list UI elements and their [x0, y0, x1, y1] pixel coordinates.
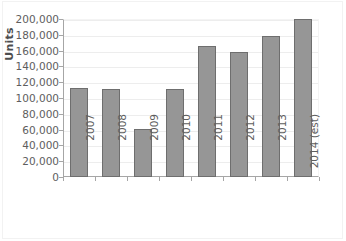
y-axis-tick: [59, 145, 63, 146]
y-axis-tick: [59, 35, 63, 36]
y-axis-tick-labels: 200,000180,000160,000140,000120,000100,0…: [0, 0, 59, 241]
y-axis-tick-label: 0: [0, 172, 59, 182]
x-axis-tick: [255, 177, 256, 181]
x-axis-tick: [63, 177, 64, 181]
y-axis-tick-label: 40,000: [0, 140, 59, 150]
x-axis-tick-label: 2008: [116, 114, 129, 184]
y-axis-tick-label: 120,000: [0, 77, 59, 87]
y-axis-tick-label: 80,000: [0, 109, 59, 119]
y-axis-tick-label: 200,000: [0, 14, 59, 24]
x-axis-tick-label: 2009: [148, 114, 161, 184]
y-axis-tick: [59, 98, 63, 99]
y-axis-tick: [59, 19, 63, 20]
x-axis-tick: [287, 177, 288, 181]
x-axis-tick: [159, 177, 160, 181]
y-axis-tick: [59, 66, 63, 67]
y-axis-tick: [59, 161, 63, 162]
y-axis-tick-label: 140,000: [0, 61, 59, 71]
y-axis-tick: [59, 130, 63, 131]
y-axis-tick: [59, 82, 63, 83]
y-axis-tick-label: 100,000: [0, 93, 59, 103]
y-axis-tick-label: 60,000: [0, 125, 59, 135]
y-axis-tick: [59, 114, 63, 115]
y-axis-tick: [59, 51, 63, 52]
x-axis-tick: [223, 177, 224, 181]
x-axis-tick: [95, 177, 96, 181]
x-axis-tick-label: 2007: [84, 114, 97, 184]
y-axis-tick-label: 160,000: [0, 46, 59, 56]
x-axis-tick-label: 2010: [180, 114, 193, 184]
x-axis-tick-label: 2013: [276, 114, 289, 184]
x-axis-tick: [191, 177, 192, 181]
bar-chart: Units 200,000180,000160,000140,000120,00…: [0, 0, 346, 241]
y-axis-tick-label: 20,000: [0, 156, 59, 166]
x-axis-tick: [127, 177, 128, 181]
x-axis-tick-label: 2014 (est): [308, 114, 321, 184]
y-axis-tick-label: 180,000: [0, 30, 59, 40]
x-axis-tick-label: 2011: [212, 114, 225, 184]
x-axis-tick-label: 2012: [244, 114, 257, 184]
